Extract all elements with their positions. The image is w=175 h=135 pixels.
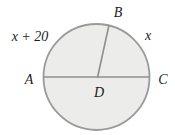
point-c-label: C [158,72,168,87]
diagram-canvas: x + 20 B x A C D [0,0,175,135]
point-b-label: B [114,5,123,20]
circle-diagram: x + 20 B x A C D [0,0,175,135]
arc-label-x: x [144,28,152,43]
point-a-label: A [24,72,34,87]
point-d-label: D [93,85,104,100]
arc-label-x-plus-20: x + 20 [11,29,49,44]
